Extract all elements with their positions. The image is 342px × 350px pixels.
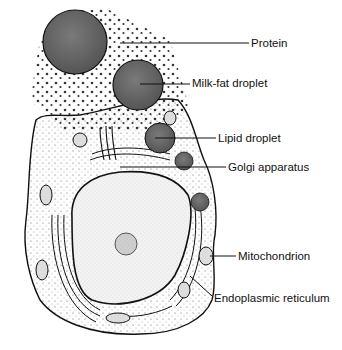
- large-fat-droplet: [43, 10, 107, 74]
- label-lipid-droplet: Lipid droplet: [218, 132, 281, 144]
- label-protein: Protein: [251, 37, 287, 49]
- label-golgi-apparatus: Golgi apparatus: [228, 161, 309, 173]
- milk-fat-droplet: [113, 60, 163, 110]
- label-endoplasmic-reticulum: Endoplasmic reticulum: [214, 292, 330, 304]
- label-milk-fat-droplet: Milk-fat droplet: [192, 77, 267, 89]
- label-mitochondrion: Mitochondrion: [238, 250, 310, 262]
- lipid-droplet-3: [191, 193, 209, 211]
